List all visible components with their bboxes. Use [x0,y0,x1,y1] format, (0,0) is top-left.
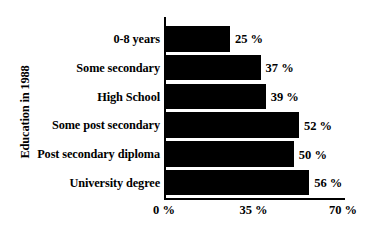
bar-row: 52 % [166,111,345,140]
bar-value-label: 52 % [299,118,332,133]
x-tick-label: 35 % [239,203,267,218]
bar-chart: Education in 1988 0-8 years Some seconda… [0,0,374,235]
bar-row: 56 % [166,169,345,198]
bars-group: 25 % 37 % 39 % 52 % 50 % 56 % [166,25,345,198]
plot-area: 25 % 37 % 39 % 52 % 50 % 56 % [164,17,345,199]
category-axis-labels: 0-8 years Some secondary High School Som… [28,25,160,198]
bar [166,55,261,81]
x-tick-label: 70 % [329,203,357,218]
x-tick-label: 0 % [153,203,175,218]
category-label: University degree [28,169,160,198]
bar [166,141,294,167]
bar-row: 50 % [166,140,345,169]
bar [166,84,266,110]
category-label: Post secondary diploma [28,140,160,169]
bar [166,26,230,52]
bar-row: 37 % [166,54,345,83]
category-label: Some secondary [28,54,160,83]
bar-row: 25 % [166,25,345,54]
bar [166,170,309,196]
bar-value-label: 39 % [266,89,299,104]
bar-row: 39 % [166,83,345,112]
x-axis-line [164,198,345,200]
category-label: High School [28,83,160,112]
bar [166,112,299,138]
bar-value-label: 25 % [230,32,263,47]
x-axis-tick-labels: 0 % 35 % 70 % [140,203,374,223]
bar-value-label: 37 % [261,61,294,76]
bar-value-label: 56 % [309,176,342,191]
bar-value-label: 50 % [294,147,327,162]
category-label: 0-8 years [28,25,160,54]
category-label: Some post secondary [28,111,160,140]
